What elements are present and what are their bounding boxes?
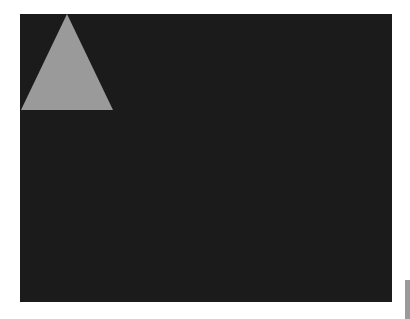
vertical-scrollbar[interactable] xyxy=(404,0,410,319)
game-canvas[interactable] xyxy=(20,14,392,302)
scrollbar-thumb[interactable] xyxy=(405,280,410,319)
canvas-drawing xyxy=(20,14,392,302)
page xyxy=(0,0,410,319)
triangle-shape xyxy=(21,14,113,110)
